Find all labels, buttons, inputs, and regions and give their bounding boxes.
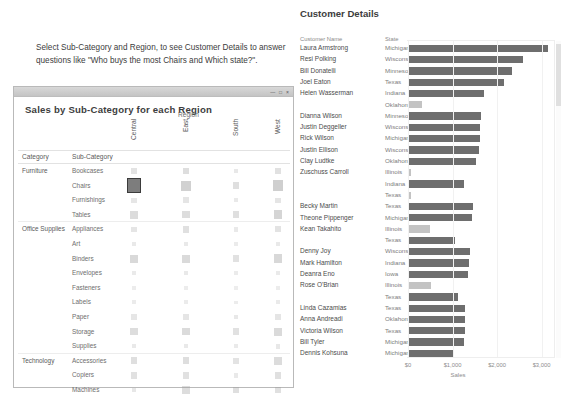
customer-state-cell[interactable]: Texas xyxy=(385,327,401,334)
matrix-subcategory-paper[interactable]: Paper xyxy=(72,313,89,320)
matrix-cell-fasteners-west[interactable] xyxy=(276,286,280,290)
customer-state-cell[interactable]: Michigan xyxy=(385,338,410,345)
matrix-cell-bookcases-west[interactable] xyxy=(275,168,281,174)
sales-bar[interactable] xyxy=(408,259,469,266)
matrix-cell-machines-west[interactable] xyxy=(275,387,282,394)
window-title-bar[interactable]: — □ × xyxy=(14,87,293,97)
sales-bar[interactable] xyxy=(408,316,465,323)
sales-bar[interactable] xyxy=(408,305,465,312)
customer-state-cell[interactable]: Texas xyxy=(385,293,401,300)
matrix-cell-storage-east[interactable] xyxy=(182,328,190,336)
matrix-cell-tables-east[interactable] xyxy=(182,211,189,218)
customer-name-cell[interactable]: Mark Hamilton xyxy=(300,259,342,266)
sales-bar[interactable] xyxy=(408,214,472,221)
matrix-subcategory-machines[interactable]: Machines xyxy=(72,386,99,393)
matrix-subcategory-furnishings[interactable]: Furnishings xyxy=(72,196,105,203)
customer-name-cell[interactable]: Laura Armstrong xyxy=(300,44,348,51)
matrix-cell-art-central[interactable] xyxy=(132,242,136,246)
sales-bar[interactable] xyxy=(408,271,468,278)
matrix-cell-furnishings-central[interactable] xyxy=(131,198,136,203)
matrix-category-furniture[interactable]: Furniture xyxy=(22,167,70,175)
matrix-subcategory-supplies[interactable]: Supplies xyxy=(72,342,97,349)
sales-bar[interactable] xyxy=(408,146,479,153)
sales-bar[interactable] xyxy=(408,327,465,334)
matrix-cell-accessories-west[interactable] xyxy=(274,357,282,365)
sales-bar[interactable] xyxy=(408,101,422,108)
sales-bar[interactable] xyxy=(408,45,548,52)
customer-state-cell[interactable]: Illinois xyxy=(385,168,402,175)
matrix-cell-labels-south[interactable] xyxy=(234,301,238,305)
customer-state-cell[interactable]: Michigan xyxy=(385,349,410,356)
matrix-cell-copiers-south[interactable] xyxy=(234,373,239,378)
matrix-subcategory-labels[interactable]: Labels xyxy=(72,298,91,305)
customer-name-cell[interactable]: Becky Martin xyxy=(300,202,338,209)
customer-state-cell[interactable]: Indiana xyxy=(385,89,405,96)
customer-name-cell[interactable]: Kean Takahito xyxy=(300,225,341,232)
customer-state-cell[interactable]: Texas xyxy=(385,202,401,209)
window-controls[interactable]: — □ × xyxy=(270,89,290,95)
matrix-cell-furnishings-south[interactable] xyxy=(234,198,238,202)
matrix-cell-paper-central[interactable] xyxy=(131,314,136,319)
matrix-cell-envelopes-south[interactable] xyxy=(234,271,238,275)
matrix-column-header-central[interactable]: Central xyxy=(130,119,137,157)
customer-name-cell[interactable]: Deanra Eno xyxy=(300,270,335,277)
sales-bar[interactable] xyxy=(408,350,453,357)
matrix-category-technology[interactable]: Technology xyxy=(22,357,70,365)
customer-name-cell[interactable]: Zuschuss Carroll xyxy=(300,168,349,175)
sales-bar[interactable] xyxy=(408,237,455,244)
matrix-cell-paper-east[interactable] xyxy=(183,314,188,319)
matrix-cell-storage-south[interactable] xyxy=(233,328,239,334)
customer-state-cell[interactable]: Michigan xyxy=(385,44,410,51)
matrix-subcategory-fasteners[interactable]: Fasteners xyxy=(72,284,100,291)
matrix-subcategory-accessories[interactable]: Accessories xyxy=(72,357,106,364)
matrix-cell-bookcases-central[interactable] xyxy=(131,168,137,174)
matrix-cell-chairs-south[interactable] xyxy=(233,182,240,189)
customer-state-cell[interactable]: Indiana xyxy=(385,180,405,187)
customer-name-cell[interactable]: Justin Deggeller xyxy=(300,123,347,130)
customer-name-cell[interactable]: Anna Andreadi xyxy=(300,315,343,322)
customer-name-cell[interactable]: Theone Pippenger xyxy=(300,214,354,221)
matrix-cell-appliances-east[interactable] xyxy=(183,226,190,233)
sales-bar[interactable] xyxy=(408,79,504,86)
customer-name-cell[interactable]: Bill Tyler xyxy=(300,338,324,345)
matrix-cell-storage-central[interactable] xyxy=(130,328,137,335)
matrix-cell-envelopes-west[interactable] xyxy=(276,271,280,275)
matrix-cell-supplies-south[interactable] xyxy=(234,344,238,348)
customer-name-cell[interactable]: Rose O'Brian xyxy=(300,281,338,288)
matrix-cell-fasteners-east[interactable] xyxy=(184,286,188,290)
matrix-cell-appliances-south[interactable] xyxy=(234,227,239,232)
customer-name-cell[interactable]: Victoria Wilson xyxy=(300,327,343,334)
matrix-cell-art-east[interactable] xyxy=(184,242,189,247)
matrix-subcategory-binders[interactable]: Binders xyxy=(72,255,94,262)
matrix-cell-machines-central[interactable] xyxy=(132,388,137,393)
matrix-cell-machines-south[interactable] xyxy=(233,387,240,394)
matrix-cell-machines-east[interactable] xyxy=(182,386,189,393)
sales-bar[interactable] xyxy=(408,225,430,232)
matrix-cell-binders-east[interactable] xyxy=(182,255,190,263)
customer-state-cell[interactable]: Illinois xyxy=(385,225,402,232)
matrix-cell-accessories-east[interactable] xyxy=(183,357,190,364)
customer-name-cell[interactable]: Bill Donatelli xyxy=(300,67,336,74)
customer-state-cell[interactable]: Michigan xyxy=(385,214,410,221)
customer-state-cell[interactable]: Texas xyxy=(385,304,401,311)
sales-bar[interactable] xyxy=(408,90,484,97)
matrix-cell-binders-south[interactable] xyxy=(233,255,239,261)
matrix-cell-fasteners-south[interactable] xyxy=(234,286,238,290)
matrix-cell-furnishings-east[interactable] xyxy=(183,197,188,202)
matrix-cell-accessories-south[interactable] xyxy=(233,358,239,364)
matrix-cell-supplies-east[interactable] xyxy=(184,344,189,349)
matrix-cell-bookcases-east[interactable] xyxy=(183,168,190,175)
sales-bar[interactable] xyxy=(408,158,476,165)
sales-bar[interactable] xyxy=(408,135,480,142)
matrix-cell-tables-central[interactable] xyxy=(130,211,138,219)
matrix-subcategory-tables[interactable]: Tables xyxy=(72,211,90,218)
customer-name-cell[interactable]: Joel Eaton xyxy=(300,78,331,85)
matrix-cell-envelopes-east[interactable] xyxy=(184,271,188,275)
customer-name-cell[interactable]: Dennis Kohsuna xyxy=(300,349,348,356)
matrix-cell-chairs-central[interactable] xyxy=(128,179,141,192)
matrix-cell-paper-west[interactable] xyxy=(275,314,280,319)
matrix-cell-appliances-central[interactable] xyxy=(131,227,136,232)
matrix-subcategory-envelopes[interactable]: Envelopes xyxy=(72,269,102,276)
sales-bar[interactable] xyxy=(408,112,481,119)
customer-state-cell[interactable]: Texas xyxy=(385,236,401,243)
